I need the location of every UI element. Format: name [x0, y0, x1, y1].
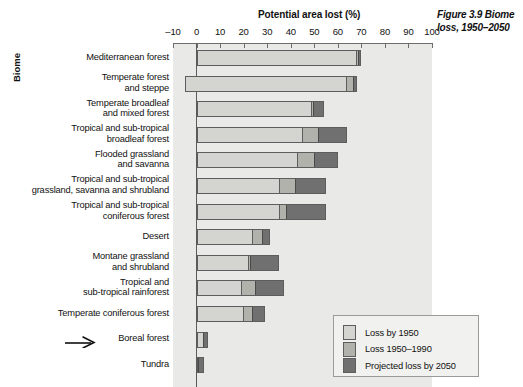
x-tick	[314, 43, 315, 48]
category-label: Temperate broadleafand mixed forest	[26, 98, 169, 119]
category-label-line: and mixed forest	[26, 108, 169, 119]
legend-swatch	[343, 342, 356, 357]
bar	[197, 152, 338, 168]
category-label-line: coniferous forest	[26, 211, 169, 222]
category-label: Tundra	[26, 359, 169, 370]
category-label-line: Flooded grassland	[26, 149, 169, 160]
category-label: Tropical andsub-tropical rainforest	[26, 277, 169, 298]
category-label-line: Temperate coniferous forest	[26, 308, 169, 319]
bar-segment-1	[198, 205, 279, 219]
legend-item: Loss 1950–1990	[343, 341, 432, 358]
chart-page: –100102030405060708090100 Potential area…	[0, 0, 523, 387]
bar-segment-2	[241, 281, 255, 295]
bar	[197, 255, 279, 271]
category-label: Temperate forestand steppe	[26, 72, 169, 93]
bar	[197, 127, 348, 143]
x-tick	[432, 43, 433, 48]
bar	[197, 280, 284, 296]
category-label-line: and shrubland	[26, 262, 169, 273]
x-axis-line	[173, 43, 432, 44]
bar-segment-3	[203, 333, 207, 347]
bar-segment-1	[198, 102, 312, 116]
legend-label: Loss 1950–1990	[365, 344, 432, 354]
bar-segment-3	[286, 205, 325, 219]
category-label-line: sub-tropical rainforest	[26, 287, 169, 298]
bar	[197, 101, 324, 117]
legend-swatch	[343, 358, 356, 373]
x-tick	[338, 43, 339, 48]
bar-segment-1	[198, 153, 298, 167]
bar-segment-3	[252, 307, 263, 321]
x-tick-label: 30	[262, 26, 272, 37]
bar-segment-1	[198, 307, 244, 321]
bar-segment-3	[314, 153, 337, 167]
bar-segment-3	[313, 102, 322, 116]
legend-item: Projected loss by 2050	[343, 357, 456, 374]
bar-segment-3	[358, 51, 360, 65]
bar-segment-1	[198, 128, 303, 142]
bar-segment-2	[297, 153, 313, 167]
category-label-line: Desert	[26, 231, 169, 242]
figure-caption: Figure 3.9 Biome loss, 1950–2050	[437, 8, 523, 34]
x-tick	[361, 43, 362, 48]
bar	[185, 76, 357, 92]
category-label: Tropical and sub-tropicalbroadleaf fores…	[26, 123, 169, 144]
x-tick	[220, 43, 221, 48]
category-label-line: Tropical and sub-tropical	[26, 174, 169, 185]
bar-segment-1	[198, 256, 249, 270]
bar-segment-3	[262, 230, 269, 244]
x-tick	[197, 43, 198, 48]
bar-segment-2	[279, 205, 286, 219]
x-tick-label: 10	[215, 26, 225, 37]
x-tick	[291, 43, 292, 48]
bar-segment-2	[279, 179, 295, 193]
bar-segment-2	[346, 77, 353, 91]
bar-segment-1	[198, 179, 279, 193]
bar	[197, 50, 362, 66]
category-label: Mediterranean forest	[26, 52, 169, 63]
bar-segment-3	[295, 179, 325, 193]
arrow-right-icon	[64, 334, 98, 346]
bar-segment-1	[198, 281, 242, 295]
category-label: Flooded grasslandand savanna	[26, 149, 169, 170]
bar	[197, 229, 270, 245]
category-label-line: and savanna	[26, 159, 169, 170]
category-label: Tropical and sub-tropicalgrassland, sava…	[26, 174, 169, 195]
category-label-line: Temperate broadleaf	[26, 98, 169, 109]
bar	[197, 204, 327, 220]
bar	[197, 332, 209, 348]
x-tick	[385, 43, 386, 48]
bar-segment-3	[255, 281, 283, 295]
bar	[197, 178, 327, 194]
bar	[197, 357, 204, 373]
x-tick	[173, 43, 174, 48]
x-tick	[244, 43, 245, 48]
category-label: Desert	[26, 231, 169, 242]
category-label: Tropical and sub-tropicalconiferous fore…	[26, 200, 169, 221]
x-tick-label: 60	[333, 26, 343, 37]
category-label: Temperate coniferous forest	[26, 308, 169, 319]
legend-label: Projected loss by 2050	[365, 361, 456, 371]
legend-label: Loss by 1950	[365, 328, 419, 338]
x-tick-label: 50	[309, 26, 319, 37]
bar-segment-1	[198, 51, 356, 65]
category-label-line: Montane grassland	[26, 251, 169, 262]
category-label-line: Temperate forest	[26, 72, 169, 83]
y-axis-title: Biome	[11, 40, 22, 96]
bar	[197, 306, 265, 322]
category-label-line: broadleaf forest	[26, 134, 169, 145]
bar-segment-3	[353, 77, 355, 91]
x-tick-label: 80	[380, 26, 390, 37]
x-axis-title: Potential area lost (%)	[258, 9, 360, 20]
bar-segment-3	[318, 128, 346, 142]
category-label-line: Tropical and sub-tropical	[26, 123, 169, 134]
x-tick-label: 70	[356, 26, 366, 37]
bar-segment-1	[186, 77, 347, 91]
legend-swatch	[343, 325, 356, 340]
bar-segment-2	[243, 307, 252, 321]
legend-box: Loss by 1950Loss 1950–1990Projected loss…	[333, 315, 479, 377]
bar-segment-2	[252, 230, 261, 244]
x-tick	[267, 43, 268, 48]
bar-segment-1	[198, 230, 253, 244]
x-tick-label: 20	[239, 26, 249, 37]
